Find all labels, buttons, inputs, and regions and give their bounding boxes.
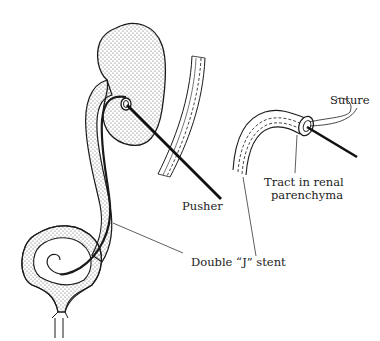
bladder (22, 226, 102, 338)
tract-detail-inset (233, 98, 357, 175)
tract-label-line2: parenchyma (271, 189, 343, 202)
leader-lines (113, 135, 297, 256)
pusher-label: Pusher (182, 200, 223, 213)
pusher-rod (127, 105, 221, 199)
stent-diagram (0, 0, 380, 341)
stent-label: Double “J” stent (191, 256, 286, 269)
suture-label: Suture (330, 94, 370, 107)
